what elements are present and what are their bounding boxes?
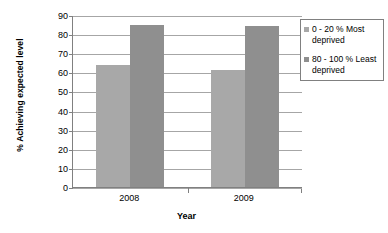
x-axis-category-labels: 20082009 <box>72 192 301 208</box>
chart-legend: 0 - 20 % Most deprived80 - 100 % Least d… <box>300 19 384 81</box>
y-axis-tick-mark <box>69 92 73 93</box>
y-axis-tick-mark <box>69 35 73 36</box>
y-axis-tick-label: 10 <box>58 164 68 173</box>
y-axis-tick-labels: 0102030405060708090 <box>40 10 68 195</box>
legend-swatch-icon <box>304 57 309 62</box>
y-axis-tick-mark <box>69 131 73 132</box>
x-axis-title: Year <box>72 211 301 221</box>
y-axis-tick-label: 0 <box>63 184 68 193</box>
y-axis-tick-label: 40 <box>58 107 68 116</box>
y-axis-tick-label: 70 <box>58 50 68 59</box>
legend-item[interactable]: 80 - 100 % Least deprived <box>304 54 380 75</box>
bar <box>211 70 245 187</box>
x-axis-category-label: 2009 <box>234 192 254 204</box>
y-axis-title-wrap: % Achieving expected level <box>0 0 40 190</box>
x-axis-category-label: 2008 <box>119 192 139 204</box>
y-axis-tick-mark <box>69 169 73 170</box>
y-axis-tick-mark <box>69 112 73 113</box>
legend-item-label: 80 - 100 % Least deprived <box>312 54 380 75</box>
y-axis-tick-label: 20 <box>58 145 68 154</box>
y-axis-tick-label: 30 <box>58 126 68 135</box>
y-axis-tick-mark <box>69 73 73 74</box>
y-axis-tick-mark <box>69 16 73 17</box>
y-axis-tick-label: 60 <box>58 69 68 78</box>
y-axis-tick-label: 90 <box>58 12 68 21</box>
y-axis-tick-mark <box>69 188 73 189</box>
bar <box>130 25 164 187</box>
bar-chart: % Achieving expected level 0102030405060… <box>0 0 388 233</box>
legend-item-label: 0 - 20 % Most deprived <box>312 24 380 45</box>
y-axis-title: % Achieving expected level <box>15 38 25 151</box>
y-axis-tick-mark <box>69 150 73 151</box>
plot-area <box>72 16 302 188</box>
bar <box>245 26 279 187</box>
legend-swatch-icon <box>304 27 309 32</box>
gridline <box>73 16 302 17</box>
bar <box>96 65 130 187</box>
y-axis-tick-mark <box>69 54 73 55</box>
legend-item[interactable]: 0 - 20 % Most deprived <box>304 24 380 45</box>
y-axis-tick-label: 80 <box>58 31 68 40</box>
y-axis-tick-label: 50 <box>58 88 68 97</box>
